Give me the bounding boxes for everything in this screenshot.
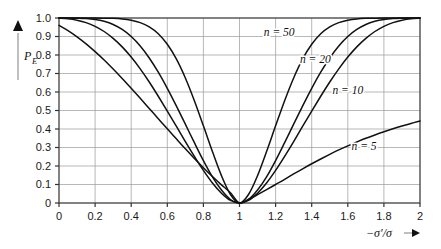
x-tick-label: 2: [417, 210, 423, 222]
y-tick-label: 0: [45, 197, 51, 209]
chart-figure: P E 00.20.40.60.811.21.41.61.82 00.10.20…: [0, 0, 441, 249]
x-tick-label: 1: [236, 210, 242, 222]
y-tick-label: 0.8: [36, 49, 51, 61]
y-tick-label: 0.1: [36, 178, 51, 190]
x-axis-title-text: −σ′/σ: [366, 226, 393, 240]
curve-label-10: n = 10: [332, 84, 363, 96]
y-tick-label: 0.7: [36, 67, 51, 79]
x-tick-label: 0.4: [124, 210, 139, 222]
y-tick-label: 0.4: [36, 123, 51, 135]
y-tick-label: 0.5: [36, 104, 51, 116]
x-axis-tick-labels: 00.20.40.60.811.21.41.61.82: [56, 210, 423, 222]
axis-ticks: [55, 18, 420, 207]
curve-label-20: n = 20: [300, 53, 331, 65]
y-tick-label: 0.6: [36, 86, 51, 98]
x-tick-label: 0.8: [196, 210, 211, 222]
y-tick-label: 0.2: [36, 160, 51, 172]
curve-label-5: n = 5: [352, 140, 377, 152]
x-axis-title: −σ′/σ: [366, 226, 420, 240]
x-tick-label: 1.6: [340, 210, 355, 222]
error-probability-chart: P E 00.20.40.60.811.21.41.61.82 00.10.20…: [0, 0, 441, 249]
y-tick-label: 0.9: [36, 30, 51, 42]
x-tick-label: 0.2: [87, 210, 102, 222]
y-axis-title-main: P: [23, 49, 32, 63]
x-tick-label: 1.4: [304, 210, 319, 222]
y-tick-label: 1.0: [36, 12, 51, 24]
x-tick-label: 0: [56, 210, 62, 222]
x-tick-label: 0.6: [160, 210, 175, 222]
y-axis-tick-labels: 00.10.20.30.40.50.60.70.80.91.0: [36, 12, 51, 209]
gridlines: [59, 18, 420, 203]
x-tick-label: 1.8: [376, 210, 391, 222]
curve-label-50: n = 50: [264, 26, 295, 38]
x-axis-arrow-icon: [404, 229, 420, 237]
y-axis-arrow-icon: [13, 20, 23, 80]
y-tick-label: 0.3: [36, 141, 51, 153]
x-tick-label: 1.2: [268, 210, 283, 222]
